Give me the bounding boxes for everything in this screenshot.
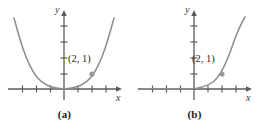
x-axis-arrow-a — [116, 86, 122, 92]
point-label-a: (2, 1) — [68, 53, 91, 65]
panel-b: (2, 1) y x (b) — [130, 0, 259, 137]
point-label-b: (2, 1) — [192, 53, 215, 65]
point-marker-a — [89, 71, 94, 76]
x-axis-arrow-b — [246, 86, 252, 92]
y-axis-label-a: y — [54, 4, 60, 15]
plot-area-a: (2, 1) y x — [0, 0, 129, 110]
plot-area-b: (2, 1) y x — [130, 0, 259, 110]
figure-two-graphs: (2, 1) y x (a) — [0, 0, 259, 137]
panel-caption-a: (a) — [0, 108, 129, 120]
y-axis-arrow-a — [61, 10, 67, 16]
y-axis-arrow-b — [191, 10, 197, 16]
x-axis-label-a: x — [115, 92, 121, 103]
y-axis-label-b: y — [184, 4, 190, 15]
point-marker-b — [219, 71, 224, 76]
panel-a: (2, 1) y x (a) — [0, 0, 129, 137]
panel-caption-b: (b) — [130, 108, 259, 120]
x-axis-label-b: x — [245, 92, 251, 103]
